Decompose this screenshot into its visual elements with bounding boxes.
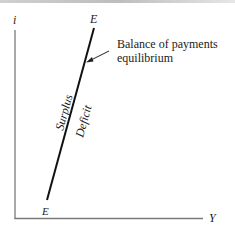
surplus-label: Surplus (52, 92, 75, 131)
y-axis-label: i (13, 13, 16, 27)
arrow-head-icon (86, 57, 94, 63)
curve-bottom-label: E (41, 205, 49, 217)
annotation-line-2: equilibrium (117, 51, 174, 65)
deficit-label: Deficit (72, 103, 95, 140)
bop-diagram: i Y E E Balance of payments equilibrium … (0, 0, 235, 234)
x-axis-label: Y (209, 211, 217, 225)
annotation-line-1: Balance of payments (117, 37, 218, 51)
curve-top-label: E (89, 12, 98, 26)
